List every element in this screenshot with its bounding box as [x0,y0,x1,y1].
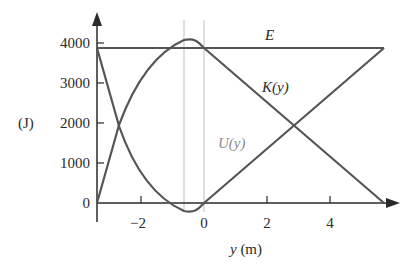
series-K-curve [97,39,384,203]
x-axis-label: y (m) [228,241,262,258]
x-axis-arrow-icon [386,198,400,208]
energy-chart: 0 1000 2000 3000 4000 (J) −2 0 2 4 y (m)… [0,0,407,268]
x-tick-2: 2 [263,215,271,231]
y-tick-0: 0 [83,195,91,211]
x-tick-4: 4 [326,215,334,231]
y-tick-4000: 4000 [60,35,90,51]
y-tick-2000: 2000 [60,115,90,131]
x-tick-neg2: −2 [130,215,146,231]
y-axis-label: (J) [18,115,34,132]
label-U: U(y) [218,135,245,152]
label-K: K(y) [261,79,289,96]
y-tick-1000: 1000 [60,155,90,171]
y-tick-3000: 3000 [60,75,90,91]
series-U-curve [97,48,384,212]
y-axis-arrow-icon [92,12,102,26]
label-E: E [264,27,274,43]
x-tick-0: 0 [200,215,208,231]
